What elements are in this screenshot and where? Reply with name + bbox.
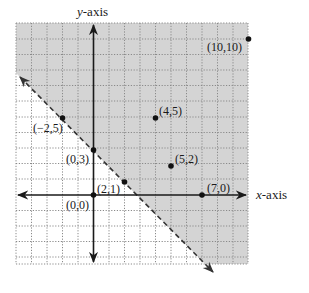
label-7-0: (7,0) xyxy=(207,181,230,195)
label-2-1: (2,1) xyxy=(97,182,120,196)
y-axis-label: y-axis xyxy=(75,4,108,19)
point-neg2-5 xyxy=(60,115,66,121)
point-7-0 xyxy=(199,192,205,198)
shaded-region xyxy=(16,23,248,264)
label-5-2: (5,2) xyxy=(175,152,198,166)
point-5-2 xyxy=(168,163,174,169)
point-0-3 xyxy=(91,147,97,153)
label-0-3: (0,3) xyxy=(66,152,89,166)
label-neg2-5: (−2,5) xyxy=(33,121,63,135)
x-axis-label: x-axis xyxy=(255,187,287,202)
point-2-1 xyxy=(122,179,128,185)
point-10-10 xyxy=(246,36,252,42)
point-0-0 xyxy=(91,192,97,198)
label-4-5: (4,5) xyxy=(159,104,182,118)
label-10-10: (10,10) xyxy=(207,40,242,54)
coordinate-graph: y-axis x-axis (−2,5) (0,3) (2,1) (4,5) (… xyxy=(0,0,309,293)
label-0-0: (0,0) xyxy=(66,198,89,212)
point-4-5 xyxy=(153,115,159,121)
